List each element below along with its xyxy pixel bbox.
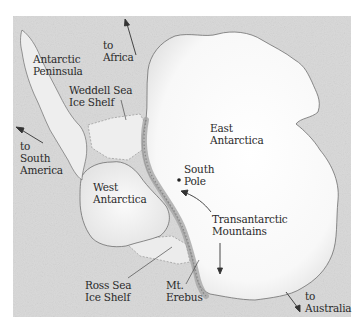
label-weddell-sea-ice-shelf: Weddell Sea Ice Shelf [69,84,132,108]
south-pole-marker [177,178,181,182]
label-to-south-america: to South America [20,140,63,176]
label-antarctic-peninsula: Antarctic Peninsula [33,53,83,77]
label-transantarctic-mountains: Transantarctic Mountains [212,213,288,237]
label-south-pole: South Pole [184,163,214,187]
label-to-australia: to Australia [305,290,351,314]
label-to-africa: to Africa [103,39,134,63]
label-west-antarctica: West Antarctica [93,181,146,205]
label-east-antarctica: East Antarctica [210,122,263,146]
label-ross-sea-ice-shelf: Ross Sea Ice Shelf [85,279,131,303]
label-mt-erebus: Mt. Erebus [166,279,203,303]
